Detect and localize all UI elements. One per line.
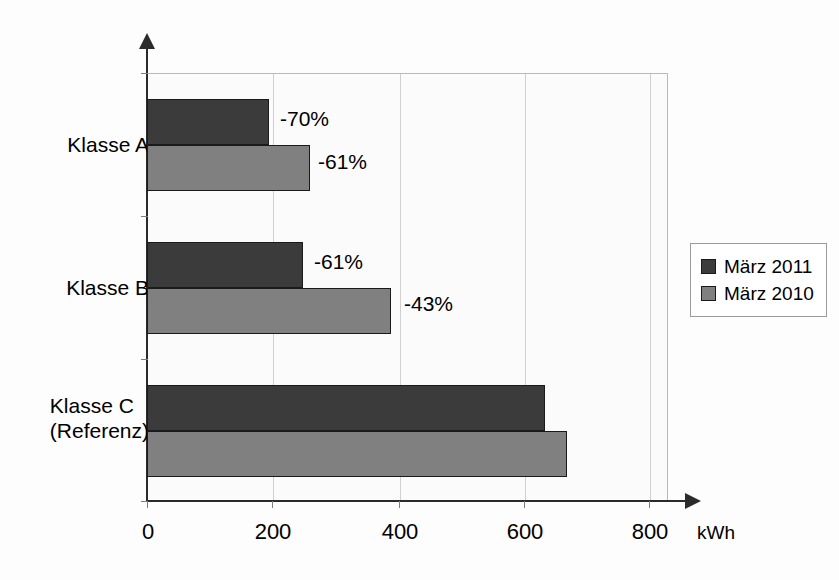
legend-item-maerz-2011: März 2011: [701, 253, 814, 280]
x-axis-tick: [524, 501, 525, 508]
x-axis-tick: [649, 501, 650, 508]
x-axis-line: [147, 500, 687, 502]
legend-item-label: März 2011: [724, 256, 812, 278]
x-axis-tick-label: 600: [507, 519, 544, 545]
bar-label-klasse-b-maerz-2011: -61%: [314, 250, 363, 274]
legend-item-maerz-2010: März 2010: [701, 280, 814, 307]
y-axis-tick: [141, 359, 148, 360]
x-axis-tick-label: 200: [255, 519, 292, 545]
category-label-line: (Referenz): [50, 418, 149, 443]
x-axis-tick-label: 800: [632, 519, 669, 545]
category-label-klasse-b: Klasse B: [66, 275, 149, 300]
bar-chart: 0 200 400 600 800 kWh Klasse A Klasse B …: [0, 0, 839, 580]
bar-klasse-a-maerz-2011: [147, 99, 269, 145]
category-label-line: Klasse B: [66, 275, 149, 300]
x-axis-tick-label: 0: [142, 519, 154, 545]
y-axis-tick: [141, 73, 148, 74]
category-label-line: Klasse A: [67, 132, 149, 157]
x-axis-tick: [272, 501, 273, 508]
legend-swatch-icon: [701, 286, 716, 301]
bar-klasse-a-maerz-2010: [147, 145, 310, 191]
bar-klasse-c-maerz-2011: [147, 385, 545, 431]
x-axis-unit-label: kWh: [697, 522, 735, 544]
bar-klasse-b-maerz-2010: [147, 288, 391, 334]
legend-swatch-icon: [701, 259, 716, 274]
bar-klasse-b-maerz-2011: [147, 242, 303, 288]
x-axis-tick-label: 400: [382, 519, 419, 545]
bar-label-klasse-b-maerz-2010: -43%: [404, 292, 453, 316]
y-axis-arrow-icon: [139, 33, 155, 49]
x-axis-arrow-icon: [685, 493, 701, 509]
legend: März 2011 März 2010: [690, 243, 827, 317]
bar-label-klasse-a-maerz-2010: -61%: [318, 150, 367, 174]
category-label-line: Klasse C: [50, 393, 149, 418]
legend-item-label: März 2010: [724, 283, 814, 305]
category-label-klasse-c: Klasse C (Referenz): [50, 393, 149, 443]
x-axis-tick: [399, 501, 400, 508]
gridline-800: [650, 74, 651, 500]
bar-klasse-c-maerz-2010: [147, 431, 567, 477]
y-axis-tick: [141, 216, 148, 217]
x-axis-tick: [147, 501, 148, 508]
category-label-klasse-a: Klasse A: [67, 132, 149, 157]
bar-label-klasse-a-maerz-2011: -70%: [280, 107, 329, 131]
